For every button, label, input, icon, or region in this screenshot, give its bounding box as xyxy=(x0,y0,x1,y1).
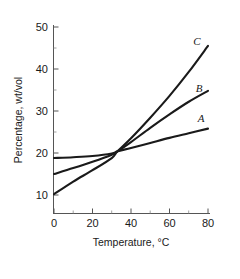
y-axis-title: Percentage, wt/vol xyxy=(12,77,24,163)
chart-figure: 50 40 30 20 10 Percentage, wt/vol 0 20 4… xyxy=(0,0,240,279)
x-tick-label-20: 20 xyxy=(86,217,98,229)
y-tick-label-10: 10 xyxy=(36,189,48,201)
x-tick-label-40: 40 xyxy=(125,217,137,229)
y-tick-label-20: 20 xyxy=(36,147,48,159)
line-chart: 50 40 30 20 10 Percentage, wt/vol 0 20 4… xyxy=(0,0,240,279)
y-tick-label-40: 40 xyxy=(36,63,48,75)
x-tick-label-80: 80 xyxy=(202,217,214,229)
series-label-b: B xyxy=(196,82,203,94)
x-tick-label-60: 60 xyxy=(163,217,175,229)
x-tick-label-0: 0 xyxy=(51,217,57,229)
y-tick-label-30: 30 xyxy=(36,105,48,117)
series-label-c: C xyxy=(193,35,201,47)
x-axis-title: Temperature, °C xyxy=(93,236,170,248)
series-label-a: A xyxy=(197,112,205,124)
y-tick-label-50: 50 xyxy=(36,21,48,33)
